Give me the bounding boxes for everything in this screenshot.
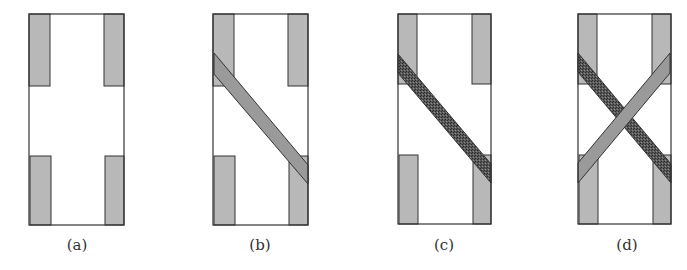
- caption-a: (a): [57, 236, 97, 254]
- panel-d: [578, 14, 671, 224]
- panel-c: [398, 14, 491, 224]
- shaded-block: [30, 156, 51, 225]
- panel-a: [29, 14, 124, 225]
- shaded-block: [472, 14, 491, 84]
- caption-c: (c): [424, 236, 464, 254]
- shaded-block: [288, 14, 308, 86]
- shaded-block: [29, 14, 50, 86]
- shaded-block: [214, 156, 235, 225]
- panel-b: [213, 14, 308, 225]
- figure-stage: (a) (b) (c) (d): [0, 0, 687, 270]
- panels-layer: [29, 14, 671, 225]
- diagram-svg: [0, 0, 687, 270]
- caption-b: (b): [240, 236, 280, 254]
- shaded-block: [104, 14, 124, 86]
- caption-d: (d): [607, 236, 647, 254]
- shaded-block: [105, 156, 124, 225]
- shaded-block: [399, 155, 418, 224]
